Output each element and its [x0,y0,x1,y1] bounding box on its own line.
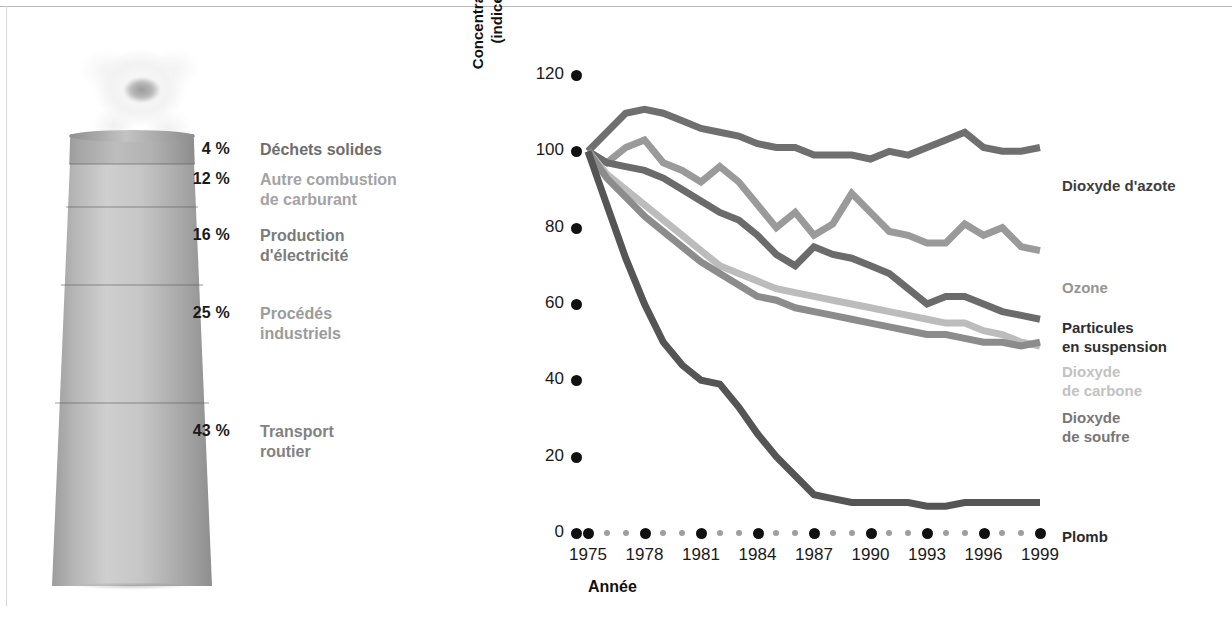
left-border-rule [6,6,7,606]
emission-source-row: 25 %Procédés industriels [178,304,341,344]
emission-source-row: 12 %Autre combustion de carburant [178,170,397,210]
smokestack-cap [69,130,195,142]
emission-source-percent: 16 % [178,226,230,244]
smokestack-band-divider [69,163,195,165]
emission-source-percent: 43 % [178,422,230,440]
smokestack-ground-shadow [52,582,212,590]
smokestack-band-divider [55,402,209,404]
legend-label: Dioxyde de soufre [1062,408,1130,446]
emission-source-percent: 25 % [178,304,230,322]
emission-source-row: 4 %Déchets solides [178,140,382,160]
legend-label: Particules en suspension [1062,318,1167,356]
air-quality-chart: Concentrations ambiantes (indice, 1975 =… [470,40,1232,600]
emission-source-label: Transport routier [260,422,334,462]
emission-source-label: Autre combustion de carburant [260,170,397,210]
emission-source-label: Production d'électricité [260,226,348,266]
legend-label: Ozone [1062,278,1108,297]
legend-label: Dioxyde d'azote [1062,176,1176,195]
top-border-rule [0,6,1232,7]
legend-label: Dioxyde de carbone [1062,362,1142,400]
figure-root: 4 %Déchets solides12 %Autre combustion d… [0,0,1232,632]
emission-source-row: 43 %Transport routier [178,422,334,462]
emission-source-percent: 12 % [178,170,230,188]
smokestack-band-divider [61,284,203,286]
emission-source-row: 16 %Production d'électricité [178,226,348,266]
emission-source-label: Déchets solides [260,140,382,160]
emission-source-label: Procédés industriels [260,304,341,344]
legend-label: Plomb [1062,527,1108,546]
x-axis-label: Année [588,578,637,596]
emission-source-percent: 4 % [178,140,230,158]
